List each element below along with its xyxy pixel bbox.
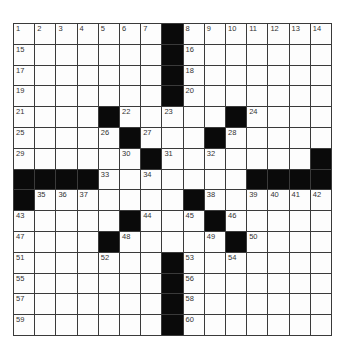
grid-cell[interactable] <box>99 294 119 314</box>
grid-cell[interactable]: 42 <box>311 190 331 210</box>
grid-cell[interactable]: 24 <box>247 107 267 127</box>
grid-cell[interactable]: 59 <box>14 315 34 335</box>
grid-cell[interactable]: 10 <box>226 24 246 44</box>
grid-cell[interactable] <box>290 253 310 273</box>
grid-cell[interactable] <box>78 66 98 86</box>
grid-cell[interactable] <box>290 45 310 65</box>
grid-cell[interactable] <box>162 170 182 190</box>
grid-cell[interactable] <box>99 315 119 335</box>
grid-cell[interactable]: 27 <box>141 128 161 148</box>
grid-cell[interactable] <box>268 274 288 294</box>
grid-cell[interactable]: 7 <box>141 24 161 44</box>
grid-cell[interactable]: 50 <box>247 232 267 252</box>
grid-cell[interactable] <box>120 86 140 106</box>
grid-cell[interactable]: 34 <box>141 170 161 190</box>
grid-cell[interactable]: 12 <box>268 24 288 44</box>
grid-cell[interactable] <box>311 211 331 231</box>
grid-cell[interactable] <box>268 253 288 273</box>
grid-cell[interactable] <box>268 294 288 314</box>
grid-cell[interactable] <box>56 232 76 252</box>
grid-cell[interactable] <box>247 211 267 231</box>
grid-cell[interactable]: 31 <box>162 149 182 169</box>
grid-cell[interactable] <box>56 274 76 294</box>
grid-cell[interactable] <box>184 128 204 148</box>
grid-cell[interactable] <box>184 149 204 169</box>
grid-cell[interactable] <box>268 66 288 86</box>
grid-cell[interactable] <box>35 232 55 252</box>
grid-cell[interactable]: 9 <box>205 24 225 44</box>
grid-cell[interactable] <box>311 274 331 294</box>
grid-cell[interactable] <box>311 107 331 127</box>
grid-cell[interactable] <box>268 128 288 148</box>
grid-cell[interactable] <box>56 149 76 169</box>
grid-cell[interactable] <box>35 128 55 148</box>
grid-cell[interactable] <box>205 107 225 127</box>
grid-cell[interactable] <box>78 128 98 148</box>
grid-cell[interactable] <box>184 170 204 190</box>
grid-cell[interactable] <box>290 232 310 252</box>
grid-cell[interactable]: 36 <box>56 190 76 210</box>
grid-cell[interactable] <box>247 149 267 169</box>
grid-cell[interactable] <box>56 66 76 86</box>
grid-cell[interactable] <box>56 211 76 231</box>
grid-cell[interactable] <box>290 211 310 231</box>
grid-cell[interactable]: 46 <box>226 211 246 231</box>
grid-cell[interactable] <box>141 315 161 335</box>
grid-cell[interactable] <box>184 107 204 127</box>
grid-cell[interactable] <box>268 86 288 106</box>
grid-cell[interactable] <box>120 253 140 273</box>
grid-cell[interactable] <box>141 190 161 210</box>
grid-cell[interactable] <box>78 274 98 294</box>
grid-cell[interactable] <box>268 315 288 335</box>
grid-cell[interactable]: 29 <box>14 149 34 169</box>
grid-cell[interactable]: 35 <box>35 190 55 210</box>
grid-cell[interactable] <box>268 232 288 252</box>
grid-cell[interactable]: 41 <box>290 190 310 210</box>
grid-cell[interactable]: 18 <box>184 66 204 86</box>
grid-cell[interactable]: 56 <box>184 274 204 294</box>
grid-cell[interactable] <box>290 274 310 294</box>
grid-cell[interactable] <box>226 86 246 106</box>
grid-cell[interactable] <box>311 86 331 106</box>
grid-cell[interactable] <box>99 211 119 231</box>
grid-cell[interactable] <box>141 294 161 314</box>
grid-cell[interactable] <box>35 315 55 335</box>
grid-cell[interactable] <box>78 86 98 106</box>
grid-cell[interactable] <box>247 86 267 106</box>
grid-cell[interactable] <box>78 45 98 65</box>
grid-cell[interactable] <box>141 66 161 86</box>
grid-cell[interactable] <box>205 315 225 335</box>
grid-cell[interactable] <box>56 294 76 314</box>
grid-cell[interactable]: 53 <box>184 253 204 273</box>
grid-cell[interactable] <box>247 45 267 65</box>
grid-cell[interactable] <box>141 86 161 106</box>
grid-cell[interactable] <box>247 128 267 148</box>
grid-cell[interactable] <box>78 149 98 169</box>
grid-cell[interactable]: 4 <box>78 24 98 44</box>
grid-cell[interactable] <box>162 211 182 231</box>
grid-cell[interactable] <box>247 274 267 294</box>
grid-cell[interactable]: 21 <box>14 107 34 127</box>
grid-cell[interactable]: 30 <box>120 149 140 169</box>
grid-cell[interactable] <box>205 86 225 106</box>
grid-cell[interactable] <box>56 107 76 127</box>
grid-cell[interactable] <box>268 149 288 169</box>
grid-cell[interactable]: 16 <box>184 45 204 65</box>
grid-cell[interactable] <box>268 211 288 231</box>
grid-cell[interactable]: 3 <box>56 24 76 44</box>
grid-cell[interactable] <box>56 45 76 65</box>
grid-cell[interactable]: 5 <box>99 24 119 44</box>
grid-cell[interactable] <box>56 128 76 148</box>
grid-cell[interactable] <box>290 315 310 335</box>
grid-cell[interactable] <box>290 66 310 86</box>
grid-cell[interactable] <box>184 232 204 252</box>
grid-cell[interactable] <box>99 66 119 86</box>
grid-cell[interactable]: 6 <box>120 24 140 44</box>
grid-cell[interactable] <box>35 274 55 294</box>
grid-cell[interactable]: 52 <box>99 253 119 273</box>
grid-cell[interactable] <box>78 253 98 273</box>
grid-cell[interactable] <box>290 149 310 169</box>
grid-cell[interactable]: 8 <box>184 24 204 44</box>
grid-cell[interactable]: 28 <box>226 128 246 148</box>
grid-cell[interactable] <box>311 232 331 252</box>
